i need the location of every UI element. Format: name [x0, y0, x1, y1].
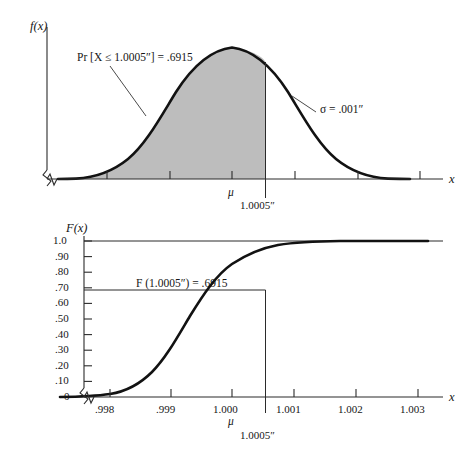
cdf-ylabel-0: 1.0: [53, 235, 67, 246]
pdf-x-axis-label: x: [449, 173, 455, 186]
cdf-ylabel-9: .10: [55, 375, 69, 386]
cdf-ylabel-10: 0: [64, 391, 70, 402]
cdf-y-axis-label: F(x): [66, 222, 88, 235]
cdf-x-axis-label: x: [449, 391, 455, 404]
cdf-ylabel-2: .80: [55, 266, 69, 277]
cdf-ylabel-4: .60: [55, 297, 69, 308]
cdf-xlabel-3: 1.001: [276, 404, 301, 415]
cdf-xlabel-0: .998: [95, 404, 114, 415]
cdf-xlabel-2: 1.000: [213, 404, 238, 415]
cdf-mu-label: μ: [228, 416, 234, 428]
cdf-curve: [60, 241, 428, 397]
cdf-panel: [0, 218, 473, 458]
cdf-bound-label: 1.0005″: [240, 430, 275, 441]
cdf-annotation: F (1.0005″) = .6915: [136, 278, 227, 290]
statistics-figure: f(x) x Pr [X ≤ 1.0005″] = .6915 σ = .001…: [0, 0, 473, 461]
cdf-xlabel-4: 1.002: [338, 404, 363, 415]
sigma-annotation: σ = .001″: [320, 104, 363, 116]
pdf-y-axis-label: f(x): [30, 20, 47, 33]
pdf-bound-label: 1.0005″: [240, 200, 275, 211]
pdf-panel: [0, 0, 473, 215]
cdf-ylabel-6: .40: [55, 329, 69, 340]
probability-leader-line: [110, 66, 146, 116]
cdf-ylabel-1: .90: [55, 251, 69, 262]
cdf-ylabel-3: .70: [55, 282, 69, 293]
probability-annotation: Pr [X ≤ 1.0005″] = .6915: [77, 52, 193, 64]
cdf-xlabel-5: 1.003: [400, 404, 425, 415]
pdf-mu-label: μ: [228, 187, 234, 199]
cdf-ylabel-5: .50: [55, 313, 69, 324]
cdf-ylabel-8: .20: [55, 360, 69, 371]
cdf-ylabel-7: .30: [55, 344, 69, 355]
cdf-xlabel-1: .999: [156, 404, 175, 415]
